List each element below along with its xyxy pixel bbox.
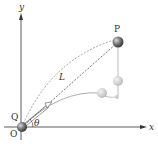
- length-label: L: [58, 72, 65, 82]
- y-axis-label: y: [18, 2, 25, 12]
- x-axis-label: x: [149, 122, 154, 132]
- point-q-label: Q: [11, 112, 18, 122]
- point-p-label: P: [114, 24, 120, 34]
- x-axis-arrow-icon: [140, 125, 147, 129]
- ball-origin: [17, 122, 27, 132]
- origin-label: O: [10, 129, 17, 139]
- y-axis: [19, 13, 23, 140]
- ball-falling: [113, 76, 123, 86]
- ball-small: [115, 95, 119, 99]
- angle-label: θ: [34, 118, 40, 128]
- projectile-diagram: y x P Q O L θ: [0, 0, 158, 156]
- ball-trajectory: [97, 88, 107, 98]
- ball-p: [113, 37, 124, 48]
- line-op: [22, 43, 117, 127]
- y-axis-arrow-icon: [19, 13, 23, 20]
